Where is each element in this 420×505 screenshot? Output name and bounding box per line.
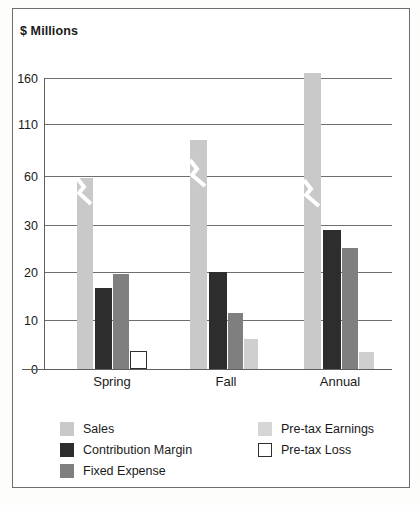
- ytick-label-110: 110: [18, 118, 38, 132]
- chart-legend: Sales Contribution Margin Fixed Expense …: [60, 418, 390, 480]
- legend-label-sales: Sales: [83, 422, 114, 436]
- legend-swatch-contribution-margin: [60, 443, 74, 457]
- bar-fall-pretax-earnings[interactable]: [244, 339, 258, 369]
- y-axis-line: [44, 78, 45, 369]
- category-label-fall: Fall: [216, 374, 237, 389]
- bar-spring-pretax-loss[interactable]: [130, 351, 147, 369]
- legend-swatch-pretax-loss: [258, 443, 272, 457]
- legend-label-fixed-expense: Fixed Expense: [83, 464, 166, 478]
- plot-area: 160 110 60 30 20 10 0: [44, 78, 392, 369]
- ytick-label-160: 160: [17, 72, 38, 86]
- bar-spring-contribution-margin[interactable]: [95, 288, 112, 369]
- category-label-annual: Annual: [320, 374, 360, 389]
- bar-annual-fixed-expense[interactable]: [342, 248, 358, 369]
- legend-item-sales[interactable]: Sales: [60, 418, 192, 439]
- x-axis-line: [22, 369, 392, 370]
- gridline-30: 30: [44, 225, 392, 226]
- legend-swatch-fixed-expense: [60, 464, 74, 478]
- legend-swatch-pretax-earnings: [258, 422, 272, 436]
- bar-spring-sales[interactable]: [77, 178, 93, 369]
- bar-fall-contribution-margin[interactable]: [209, 272, 227, 369]
- legend-item-contribution-margin[interactable]: Contribution Margin: [60, 439, 192, 460]
- legend-label-pretax-earnings: Pre-tax Earnings: [281, 422, 374, 436]
- ytick-label-30: 30: [24, 219, 38, 233]
- bar-annual-pretax-earnings[interactable]: [359, 352, 374, 369]
- axis-unit-label: $ Millions: [20, 24, 78, 38]
- ytick-label-0: 0: [31, 363, 38, 377]
- legend-item-pretax-earnings[interactable]: Pre-tax Earnings: [258, 418, 374, 439]
- ytick-label-10: 10: [24, 314, 38, 328]
- chart-figure: $ Millions 160 110 60 30 20 10 0: [0, 0, 420, 505]
- legend-item-fixed-expense[interactable]: Fixed Expense: [60, 460, 192, 481]
- ytick-label-20: 20: [24, 266, 38, 280]
- bar-annual-sales[interactable]: [304, 73, 321, 369]
- legend-label-contribution-margin: Contribution Margin: [83, 443, 192, 457]
- legend-column-right: Pre-tax Earnings Pre-tax Loss: [258, 418, 374, 460]
- ytick-label-60: 60: [24, 170, 38, 184]
- bar-spring-fixed-expense[interactable]: [113, 274, 129, 369]
- bar-fall-sales[interactable]: [190, 140, 207, 369]
- legend-column-left: Sales Contribution Margin Fixed Expense: [60, 418, 192, 481]
- bar-annual-contribution-margin[interactable]: [323, 230, 341, 369]
- gridline-110: 110: [44, 124, 392, 125]
- category-label-spring: Spring: [93, 374, 131, 389]
- bar-fall-fixed-expense[interactable]: [228, 313, 243, 369]
- legend-label-pretax-loss: Pre-tax Loss: [281, 443, 351, 457]
- gridline-60: 60: [44, 176, 392, 177]
- gridline-160: 160: [44, 78, 392, 79]
- legend-item-pretax-loss[interactable]: Pre-tax Loss: [258, 439, 374, 460]
- legend-swatch-sales: [60, 422, 74, 436]
